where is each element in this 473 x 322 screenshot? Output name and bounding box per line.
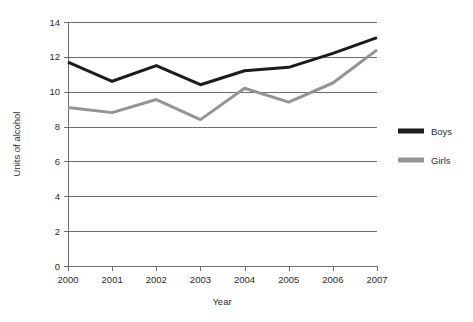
legend-label-girls: Girls xyxy=(431,155,451,166)
x-tick-label: 2005 xyxy=(278,274,299,285)
legend-label-boys: Boys xyxy=(431,126,452,137)
y-tick-label: 12 xyxy=(49,51,60,62)
x-tick-label: 2007 xyxy=(366,274,387,285)
legend-swatch-girls xyxy=(398,158,424,163)
gridlines xyxy=(68,23,377,267)
x-tick-label: 2004 xyxy=(234,274,255,285)
y-tick-label: 4 xyxy=(55,191,60,202)
y-tick-labels: 02468101214 xyxy=(49,17,60,272)
data-series xyxy=(68,38,377,120)
series-line-boys xyxy=(68,38,377,85)
x-tick-label: 2000 xyxy=(57,274,78,285)
y-tick-label: 6 xyxy=(55,156,60,167)
x-tick-label: 2001 xyxy=(102,274,123,285)
chart-legend: BoysGirls xyxy=(398,126,452,166)
line-chart-svg: 02468101214 2000200120022003200420052006… xyxy=(0,0,473,322)
y-axis xyxy=(64,22,69,267)
x-tick-label: 2003 xyxy=(190,274,211,285)
y-tick-label: 2 xyxy=(55,226,60,237)
x-tick-label: 2002 xyxy=(146,274,167,285)
y-tick-label: 10 xyxy=(49,86,60,97)
x-axis-title: Year xyxy=(212,296,231,307)
x-axis xyxy=(68,266,378,271)
series-line-girls xyxy=(68,50,377,120)
legend-swatch-boys xyxy=(398,129,424,134)
y-tick-label: 0 xyxy=(55,261,60,272)
y-tick-label: 8 xyxy=(55,121,60,132)
y-axis-title: Units of alcohol xyxy=(11,112,22,177)
y-tick-label: 14 xyxy=(49,17,60,28)
x-tick-labels: 20002001200220032004200520062007 xyxy=(57,274,387,285)
x-tick-label: 2006 xyxy=(322,274,343,285)
chart-figure: 02468101214 2000200120022003200420052006… xyxy=(0,0,473,322)
